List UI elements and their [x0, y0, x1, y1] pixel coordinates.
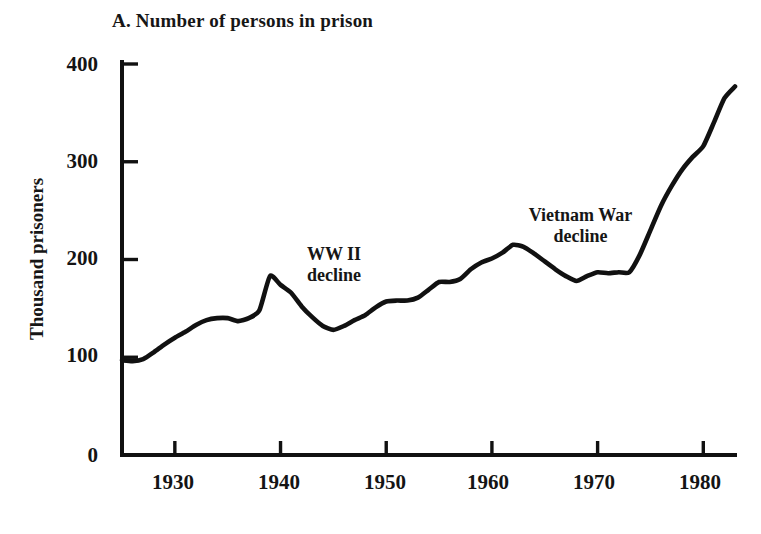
x-axis-ticks — [175, 441, 703, 455]
y-axis-ticks — [122, 64, 138, 357]
chart-figure: A. Number of persons in prison Thousand … — [0, 0, 761, 534]
axes — [120, 60, 737, 456]
data-series-line — [122, 86, 735, 361]
plot-area — [0, 0, 761, 534]
